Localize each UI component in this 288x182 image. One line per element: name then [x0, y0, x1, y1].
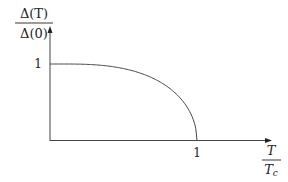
y-tick-label-0: 1: [34, 57, 42, 71]
x-label-numerator: T: [267, 143, 277, 158]
y-axis-arrow: [48, 26, 53, 33]
chart: Δ(T) Δ(0) T Tc 11: [0, 0, 288, 182]
y-label-denominator: Δ(0): [20, 26, 48, 41]
x-label-denominator: Tc: [264, 162, 278, 178]
x-axis-label: T Tc: [262, 143, 281, 178]
x-tick-label-0: 1: [193, 146, 201, 160]
series-line-gap: [50, 64, 197, 141]
y-axis-label: Δ(T) Δ(0): [15, 6, 53, 41]
y-label-numerator: Δ(T): [20, 6, 48, 21]
